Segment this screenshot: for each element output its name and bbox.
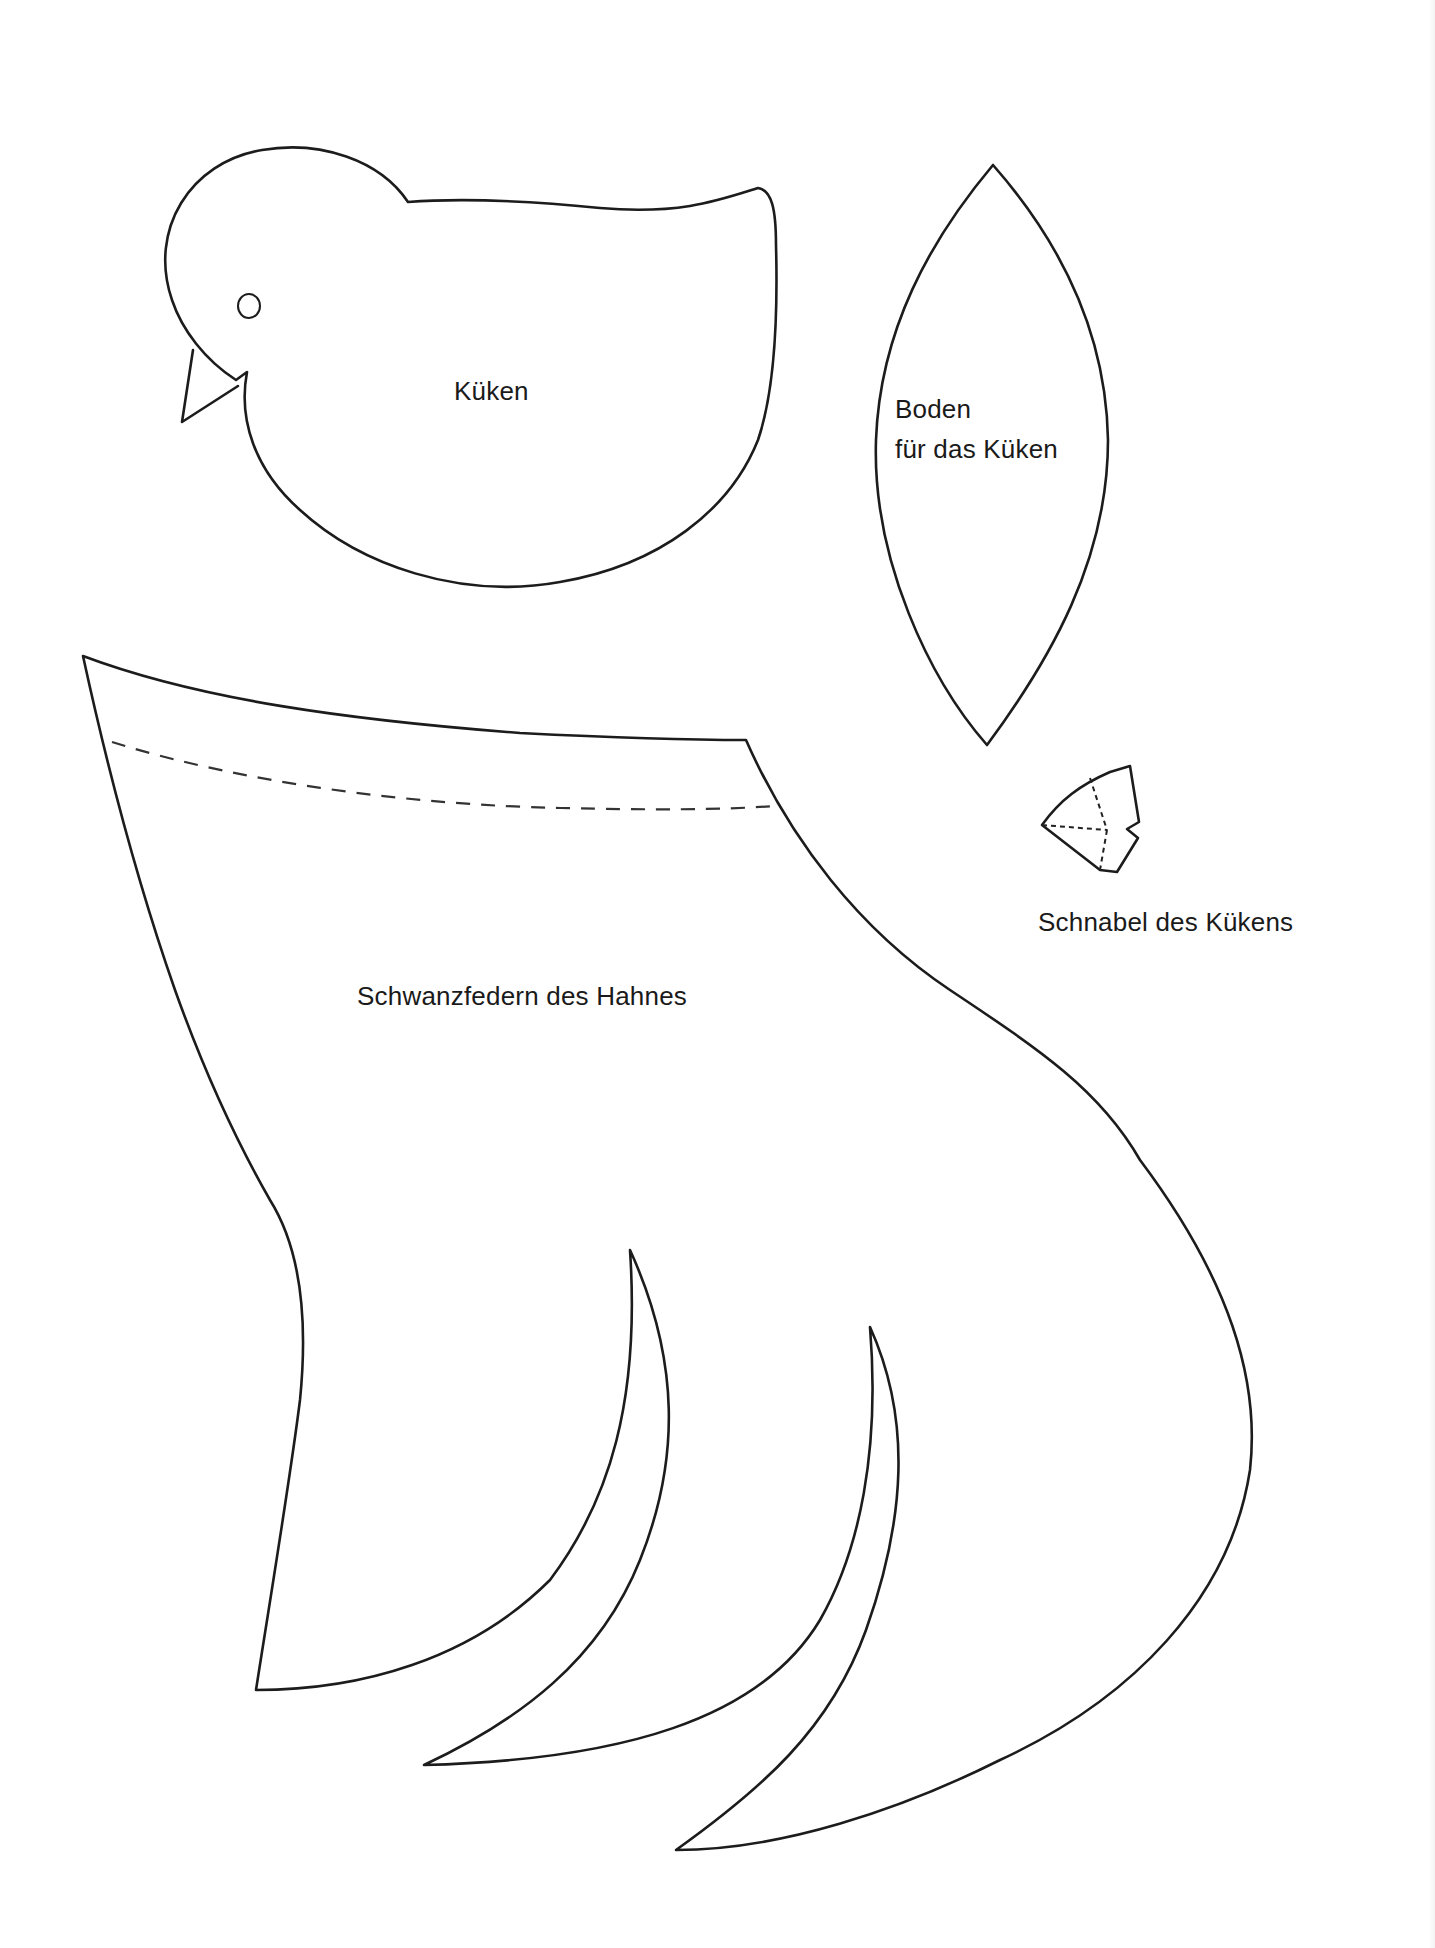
template-sheet: Küken Boden für das Küken Schnabel des K… (0, 0, 1435, 1948)
chick-beak-label: Schnabel des Kükens (1038, 906, 1293, 938)
chick-base-label-line2: für das Küken (895, 433, 1058, 465)
rooster-tail-label: Schwanzfedern des Hahnes (357, 980, 687, 1012)
chick-label: Küken (454, 375, 529, 407)
chick-piece (165, 147, 776, 586)
chick-outline (165, 147, 776, 586)
template-outlines (0, 0, 1435, 1948)
rooster-tail-fold-line (112, 742, 775, 809)
beak-fold-line-3 (1100, 830, 1107, 870)
chick-base-label-line1: Boden (895, 393, 971, 425)
beak-fold-line-2 (1090, 778, 1107, 830)
rooster-tail-outline (83, 656, 1252, 1850)
chick-eye-icon (238, 294, 260, 318)
page-edge (1429, 0, 1435, 1948)
beak-fold-line-1 (1042, 825, 1107, 830)
chick-beak-piece (1042, 766, 1139, 872)
rooster-tail-piece (83, 656, 1252, 1850)
